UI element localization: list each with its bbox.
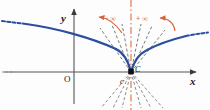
x-axis-label: x — [190, 76, 196, 87]
math-figure: y x O C c − ∞ + ∞ — [0, 0, 210, 110]
right-limit-label: + ∞ — [136, 15, 148, 23]
point-c-label: C — [135, 66, 140, 74]
left-limit-label: − ∞ — [104, 15, 116, 23]
y-axis-label: y — [61, 13, 66, 24]
point-c-marker — [128, 69, 134, 75]
x-foot-label: c — [120, 78, 124, 86]
origin-label: O — [64, 75, 71, 84]
